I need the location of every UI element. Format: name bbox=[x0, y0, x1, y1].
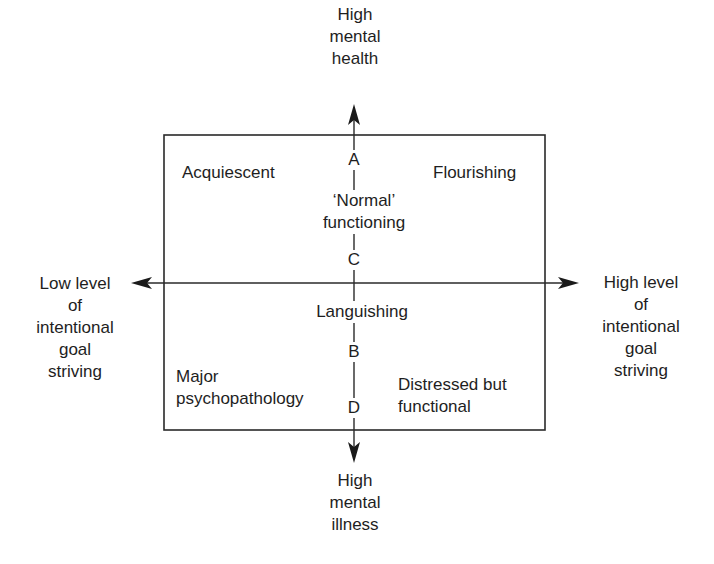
right-axis-label: High level of intentional goal striving bbox=[578, 272, 704, 382]
point-d: D bbox=[344, 398, 364, 418]
quadrant-acquiescent: Acquiescent bbox=[182, 162, 275, 184]
point-a: A bbox=[344, 150, 364, 170]
normal-functioning-label: ‘Normal’ functioning bbox=[302, 190, 426, 234]
quadrant-major-psychopathology: Major psychopathology bbox=[176, 366, 304, 410]
bottom-axis-label: High mental illness bbox=[295, 470, 415, 536]
languishing-label: Languishing bbox=[300, 301, 424, 323]
quadrant-flourishing: Flourishing bbox=[433, 162, 516, 184]
quadrant-distressed-but-functional: Distressed but functional bbox=[398, 374, 507, 418]
point-b: B bbox=[344, 342, 364, 362]
point-c: C bbox=[344, 250, 364, 270]
left-axis-label: Low level of intentional goal striving bbox=[12, 273, 138, 383]
top-axis-label: High mental health bbox=[295, 4, 415, 70]
